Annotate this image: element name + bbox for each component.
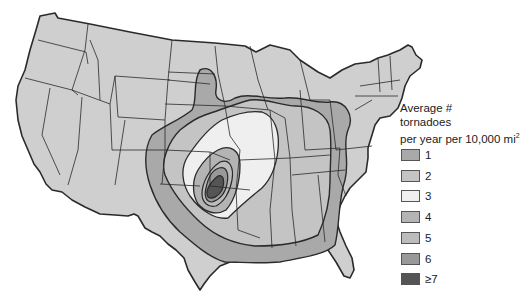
legend-title-line-2: tornadoes — [400, 115, 523, 129]
legend-label: 6 — [425, 252, 431, 266]
legend-item-6: 6 — [401, 253, 461, 266]
legend-item-7: ≥7 — [401, 273, 461, 286]
legend-swatch — [401, 170, 420, 182]
legend-swatch — [401, 232, 420, 244]
legend-swatch — [401, 190, 420, 202]
legend-units: per year per 10,000 mi — [400, 133, 516, 145]
legend-label: 3 — [425, 189, 431, 203]
legend-label: 2 — [425, 169, 431, 183]
legend-item-1: 1 — [401, 149, 461, 162]
legend-title: Average # tornadoes per year per 10,000 … — [400, 101, 523, 146]
legend-label: 5 — [425, 231, 431, 245]
legend-label: ≥7 — [425, 272, 438, 286]
legend-item-3: 3 — [401, 190, 461, 203]
legend-label: 1 — [425, 148, 431, 162]
legend-swatch — [401, 149, 420, 161]
legend-label: 4 — [425, 210, 431, 224]
legend-units-superscript: 2 — [516, 132, 520, 139]
legend-title-line-1: Average # — [400, 101, 523, 115]
legend-swatch — [401, 211, 420, 223]
legend: Average # tornadoes per year per 10,000 … — [400, 101, 523, 146]
legend-swatch — [401, 273, 420, 285]
legend-item-2: 2 — [401, 170, 461, 183]
legend-item-5: 5 — [401, 232, 461, 245]
legend-title-line-3: per year per 10,000 mi2 — [400, 129, 523, 146]
legend-item-4: 4 — [401, 211, 461, 224]
legend-swatch — [401, 253, 420, 265]
